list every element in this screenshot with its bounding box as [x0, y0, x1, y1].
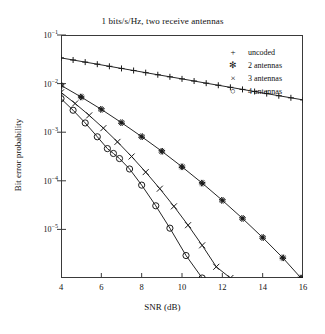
legend-marker-icon: ○	[222, 87, 244, 96]
y-tick-label: 10−5	[6, 223, 58, 234]
legend-marker-icon: ✻	[222, 61, 244, 70]
x-tick-label: 4	[49, 282, 73, 292]
y-tick-label: 10−4	[6, 175, 58, 186]
legend-item: ✻2 antennas	[222, 59, 282, 72]
series-2-antennas	[58, 82, 305, 281]
x-axis-tick-labels: 46810121416	[0, 282, 325, 298]
legend-label: 2 antennas	[244, 61, 282, 70]
x-tick-label: 10	[170, 282, 194, 292]
y-tick-label: 10−1	[6, 29, 58, 40]
x-tick-label: 6	[89, 282, 113, 292]
x-tick-label: 16	[291, 282, 315, 292]
series-4-antennas	[58, 96, 205, 282]
legend-marker-icon: +	[222, 48, 244, 57]
series-3-antennas	[58, 89, 233, 281]
legend-item: ○4 antennas	[222, 85, 282, 98]
legend-marker-icon: ×	[222, 74, 244, 83]
x-tick-label: 14	[251, 282, 275, 292]
legend-label: uncoded	[244, 48, 275, 57]
legend: +uncoded✻2 antennas×3 antennas○4 antenna…	[222, 46, 282, 98]
x-axis-title: SNR (dB)	[0, 302, 325, 312]
figure: 1 bits/s/Hz, two receive antennas Bit er…	[0, 0, 325, 334]
chart-title: 1 bits/s/Hz, two receive antennas	[0, 16, 325, 26]
y-tick-label: 10−2	[6, 78, 58, 89]
legend-item: ×3 antennas	[222, 72, 282, 85]
legend-label: 4 antennas	[244, 87, 282, 96]
legend-label: 3 antennas	[244, 74, 282, 83]
y-axis-tick-labels: 10−110−210−310−410−5	[0, 35, 58, 278]
x-tick-label: 8	[130, 282, 154, 292]
y-tick-label: 10−3	[6, 126, 58, 137]
legend-item: +uncoded	[222, 46, 282, 59]
x-tick-label: 12	[210, 282, 234, 292]
